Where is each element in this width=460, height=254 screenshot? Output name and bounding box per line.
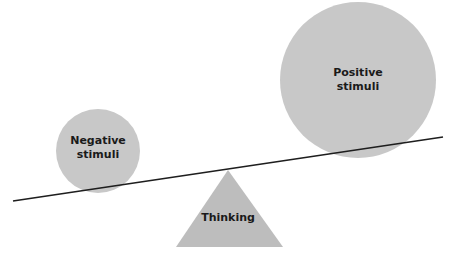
positive-stimuli-label: Positive stimuli [300,66,416,94]
thinking-fulcrum-triangle [176,170,283,247]
positive-label-line1: Positive [300,66,416,80]
thinking-label: Thinking [186,211,270,225]
negative-stimuli-label: Negative stimuli [56,134,140,162]
negative-label-line1: Negative [56,134,140,148]
positive-label-line2: stimuli [300,80,416,94]
negative-label-line2: stimuli [56,148,140,162]
